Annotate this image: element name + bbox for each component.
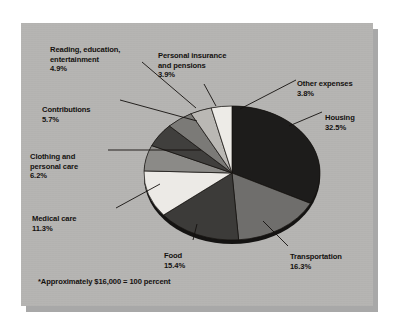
slice-label-clothing-pct: 6.2% — [30, 171, 78, 180]
slice-label-other-expenses-name: Other expenses — [297, 79, 353, 88]
slice-label-transportation-name: Transportation — [290, 252, 342, 261]
slice-label-personal-insurance-name: Personal insurance and pensions — [158, 51, 226, 69]
slice-label-food: Food 15.4% — [164, 242, 185, 280]
slice-label-medical-care-name: Medical care — [32, 214, 76, 223]
leader-line-contributions — [120, 100, 197, 121]
leader-line-housing — [289, 112, 322, 126]
slice-label-clothing-name: Clothing and personal care — [30, 152, 78, 170]
slice-label-personal-insurance: Personal insurance and pensions 3.9% — [158, 42, 226, 89]
slice-label-reading-name: Reading, education, entertainment — [50, 45, 120, 63]
slice-label-transportation-pct: 16.3% — [290, 262, 342, 271]
slice-label-reading: Reading, education, entertainment 4.9% — [50, 36, 120, 83]
leader-line-other — [240, 80, 296, 109]
slice-label-food-name: Food — [164, 251, 182, 260]
slice-label-contributions-name: Contributions — [42, 105, 90, 114]
pie-chart-figure: Reading, education, entertainment 4.9% P… — [0, 0, 401, 329]
slice-label-reading-pct: 4.9% — [50, 64, 120, 73]
slice-label-housing-name: Housing — [325, 113, 355, 122]
slice-label-housing: Housing 32.5% — [325, 104, 355, 142]
slice-label-contributions: Contributions 5.7% — [42, 96, 90, 134]
slice-label-housing-pct: 32.5% — [325, 123, 355, 132]
slice-label-other-expenses-pct: 3.8% — [297, 89, 353, 98]
slice-label-transportation: Transportation 16.3% — [290, 243, 342, 281]
slice-label-clothing: Clothing and personal care 6.2% — [30, 143, 78, 190]
chart-footnote: *Approximately $16,000 = 100 percent — [38, 277, 171, 286]
slice-label-contributions-pct: 5.7% — [42, 115, 90, 124]
slice-label-personal-insurance-pct: 3.9% — [158, 70, 226, 79]
slice-label-other-expenses: Other expenses 3.8% — [297, 70, 353, 108]
slice-label-medical-care-pct: 11.3% — [32, 224, 76, 233]
slice-label-food-pct: 15.4% — [164, 261, 185, 270]
pie-slices — [144, 106, 320, 240]
slice-label-medical-care: Medical care 11.3% — [32, 205, 76, 243]
